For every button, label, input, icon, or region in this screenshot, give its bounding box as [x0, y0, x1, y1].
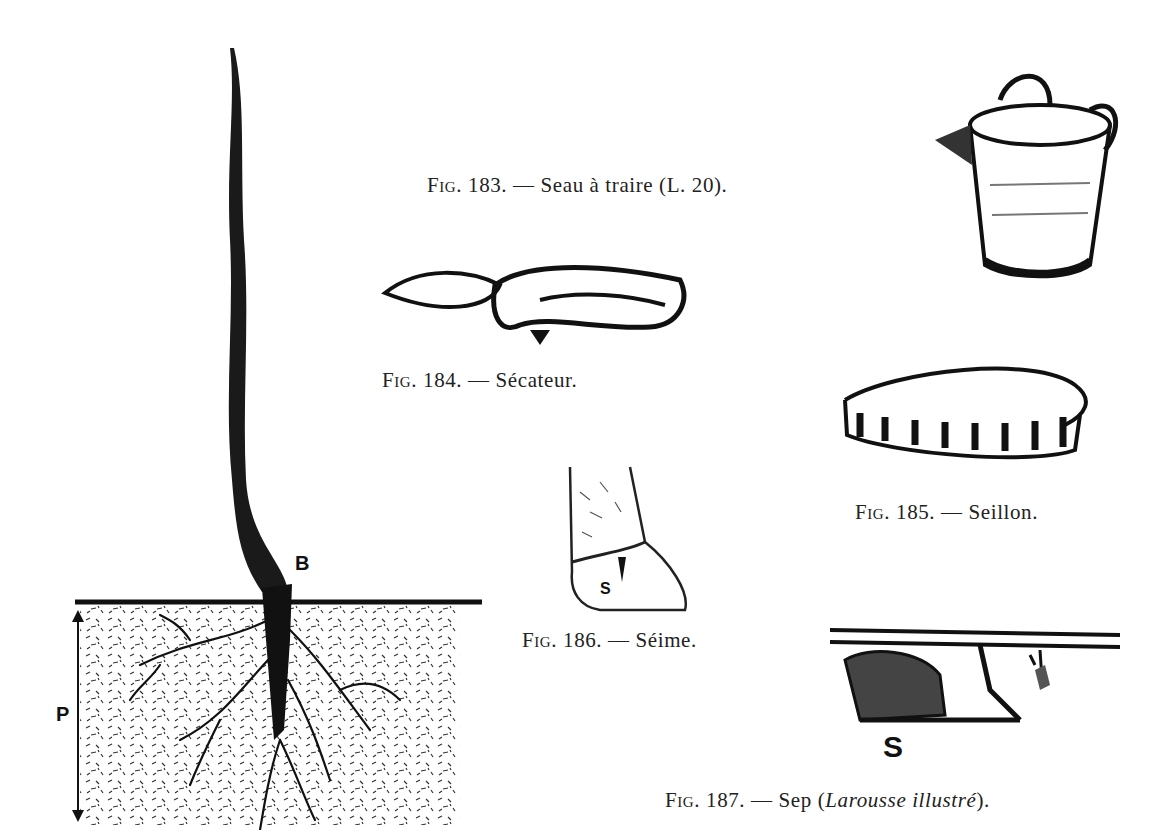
- hoof-icon: [560, 462, 695, 617]
- plough-sole-illustration: [830, 610, 1130, 725]
- pruning-shears-illustration: [380, 255, 695, 355]
- milking-pail-icon: [930, 65, 1125, 285]
- pruning-shears-icon: [380, 255, 695, 355]
- hoof-illustration: [560, 462, 695, 617]
- graft-point-label: B: [295, 552, 309, 575]
- milking-pail-illustration: [930, 65, 1125, 285]
- plough-sole-label: S: [883, 730, 903, 764]
- plough-icon: [830, 610, 1130, 725]
- caption-fig-185: Fig. 185. — Seillon.: [855, 500, 1038, 525]
- caption-fig-183: Fig. 183. — Seau à traire (L. 20).: [427, 173, 727, 198]
- caption-fig-186: Fig. 186. — Séime.: [522, 628, 697, 653]
- depth-label: P: [56, 703, 69, 726]
- hoof-crack-label: S: [600, 580, 611, 598]
- shallow-tub-icon: [835, 355, 1105, 470]
- caption-fig-187: Fig. 187. — Sep (Larousse illustré).: [665, 788, 990, 813]
- vine-stock-illustration: [40, 40, 490, 830]
- vine-stock-icon: [40, 40, 490, 830]
- caption-fig-184: Fig. 184. — Sécateur.: [382, 368, 577, 393]
- shallow-tub-illustration: [835, 355, 1105, 470]
